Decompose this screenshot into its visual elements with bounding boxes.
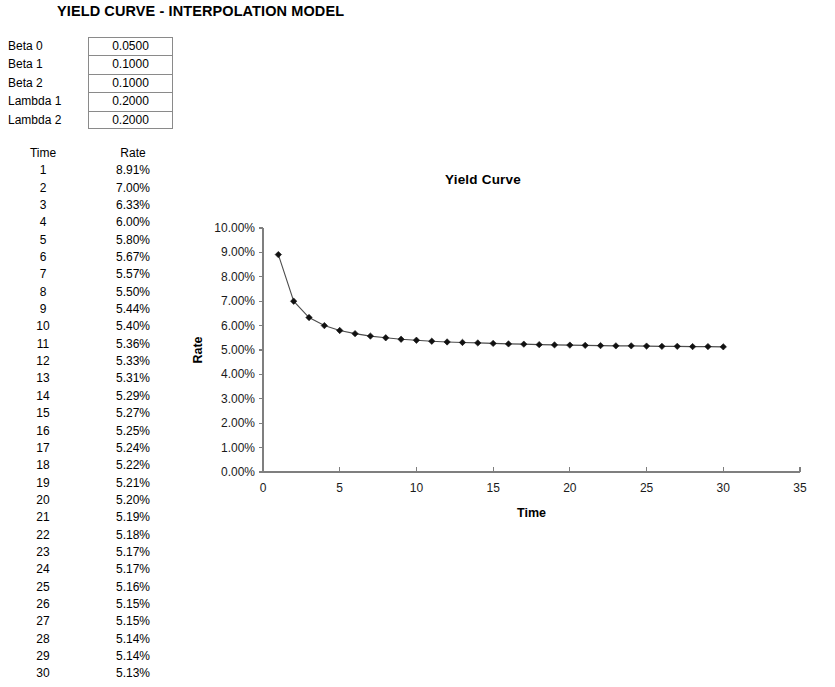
data-point-marker: [444, 339, 450, 345]
cell-rate: 5.16%: [88, 579, 178, 596]
data-point-marker: [720, 344, 726, 350]
yield-data-table: TimeRate18.91%27.00%36.33%46.00%55.80%65…: [0, 145, 185, 683]
table-row: 285.14%: [0, 631, 185, 648]
cell-time: 12: [0, 353, 86, 370]
data-point-marker: [505, 341, 511, 347]
cell-time: 21: [0, 509, 86, 526]
parameter-value-input[interactable]: 0.0500: [88, 37, 173, 55]
y-tick-label: 1.00%: [221, 441, 255, 455]
cell-time: 4: [0, 214, 86, 231]
table-row: 27.00%: [0, 180, 185, 197]
data-point-marker: [367, 333, 373, 339]
column-header-time: Time: [0, 145, 86, 162]
table-row: 125.33%: [0, 353, 185, 370]
table-row: 295.14%: [0, 648, 185, 665]
cell-rate: 5.19%: [88, 509, 178, 526]
cell-rate: 8.91%: [88, 162, 178, 179]
table-row: 145.29%: [0, 388, 185, 405]
table-row: 65.67%: [0, 249, 185, 266]
parameter-label: Lambda 1: [8, 94, 61, 108]
cell-rate: 5.33%: [88, 353, 178, 370]
cell-rate: 5.17%: [88, 561, 178, 578]
parameter-value-input[interactable]: 0.2000: [88, 92, 173, 110]
cell-time: 2: [0, 180, 86, 197]
cell-time: 19: [0, 475, 86, 492]
parameter-value-input[interactable]: 0.1000: [88, 55, 173, 73]
parameter-value-input[interactable]: 0.1000: [88, 74, 173, 92]
cell-time: 6: [0, 249, 86, 266]
y-tick-label: 2.00%: [221, 416, 255, 430]
chart-canvas: 0.00%1.00%2.00%3.00%4.00%5.00%6.00%7.00%…: [190, 160, 835, 560]
data-point-marker: [659, 343, 665, 349]
cell-time: 25: [0, 579, 86, 596]
cell-time: 29: [0, 648, 86, 665]
table-row: 155.27%: [0, 405, 185, 422]
cell-rate: 5.31%: [88, 370, 178, 387]
cell-rate: 5.50%: [88, 284, 178, 301]
data-point-marker: [337, 327, 343, 333]
cell-rate: 5.22%: [88, 457, 178, 474]
cell-rate: 5.13%: [88, 665, 178, 682]
cell-rate: 5.17%: [88, 544, 178, 561]
table-row: 135.31%: [0, 370, 185, 387]
table-row: 305.13%: [0, 665, 185, 682]
cell-rate: 5.24%: [88, 440, 178, 457]
cell-rate: 5.14%: [88, 648, 178, 665]
cell-time: 30: [0, 665, 86, 682]
table-row: 18.91%: [0, 162, 185, 179]
cell-rate: 5.27%: [88, 405, 178, 422]
data-point-marker: [628, 343, 634, 349]
table-row: 36.33%: [0, 197, 185, 214]
y-tick-label: 7.00%: [221, 294, 255, 308]
cell-rate: 5.29%: [88, 388, 178, 405]
x-tick-label: 35: [793, 481, 807, 495]
parameter-label: Beta 2: [8, 76, 43, 90]
cell-time: 15: [0, 405, 86, 422]
table-row: 265.15%: [0, 596, 185, 613]
parameter-row: Beta 00.0500: [0, 37, 180, 55]
table-row: 175.24%: [0, 440, 185, 457]
y-tick-label: 8.00%: [221, 270, 255, 284]
cell-time: 10: [0, 318, 86, 335]
table-row: 245.17%: [0, 561, 185, 578]
table-row: 165.25%: [0, 423, 185, 440]
cell-time: 24: [0, 561, 86, 578]
parameter-row: Beta 20.1000: [0, 74, 180, 92]
table-row: 275.15%: [0, 613, 185, 630]
table-row: 75.57%: [0, 266, 185, 283]
table-row: 255.16%: [0, 579, 185, 596]
column-header-rate: Rate: [88, 145, 178, 162]
cell-time: 8: [0, 284, 86, 301]
data-point-marker: [643, 343, 649, 349]
cell-rate: 5.21%: [88, 475, 178, 492]
cell-time: 27: [0, 613, 86, 630]
parameter-value-input[interactable]: 0.2000: [88, 111, 173, 129]
cell-rate: 5.14%: [88, 631, 178, 648]
data-point-marker: [536, 341, 542, 347]
data-point-marker: [413, 337, 419, 343]
parameter-row: Beta 10.1000: [0, 55, 180, 73]
data-point-marker: [321, 322, 327, 328]
cell-time: 17: [0, 440, 86, 457]
data-point-marker: [551, 342, 557, 348]
data-point-marker: [582, 342, 588, 348]
table-header-row: TimeRate: [0, 145, 185, 162]
x-tick-label: 30: [717, 481, 731, 495]
y-tick-label: 10.00%: [214, 221, 255, 235]
cell-rate: 7.00%: [88, 180, 178, 197]
y-tick-label: 5.00%: [221, 343, 255, 357]
x-axis-title: Time: [517, 506, 546, 520]
table-row: 205.20%: [0, 492, 185, 509]
y-tick-label: 3.00%: [221, 392, 255, 406]
data-point-marker: [567, 342, 573, 348]
yield-curve-chart: Yield Curve 0.00%1.00%2.00%3.00%4.00%5.0…: [190, 160, 835, 560]
data-point-marker: [521, 341, 527, 347]
table-row: 115.36%: [0, 336, 185, 353]
cell-time: 22: [0, 527, 86, 544]
data-point-marker: [383, 335, 389, 341]
cell-time: 7: [0, 266, 86, 283]
table-row: 185.22%: [0, 457, 185, 474]
cell-time: 5: [0, 232, 86, 249]
cell-rate: 5.44%: [88, 301, 178, 318]
data-point-marker: [674, 343, 680, 349]
